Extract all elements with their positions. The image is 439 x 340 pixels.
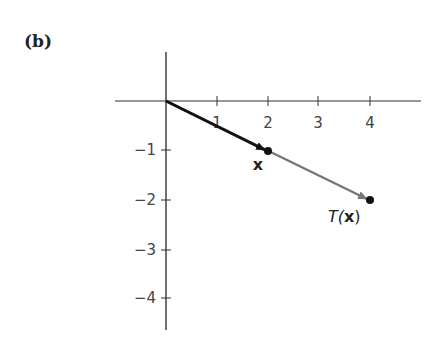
vector-chart: (b) 1 2 3 4 −1 −2 −3 −4 x T(x) bbox=[0, 0, 439, 340]
panel-label: (b) bbox=[24, 31, 52, 51]
x-tick-label: 4 bbox=[365, 114, 375, 132]
y-tick-label: −3 bbox=[134, 241, 156, 259]
point-Tx bbox=[366, 196, 374, 204]
label-x: x bbox=[253, 155, 264, 174]
point-x bbox=[264, 147, 272, 155]
x-tick-label: 2 bbox=[263, 114, 273, 132]
x-tick-label: 3 bbox=[313, 114, 323, 132]
vector-x bbox=[166, 101, 265, 150]
label-Tx: T(x) bbox=[328, 207, 361, 226]
y-tick-label: −1 bbox=[134, 141, 156, 159]
y-tick-label: −4 bbox=[134, 289, 156, 307]
y-tick-label: −2 bbox=[134, 191, 156, 209]
